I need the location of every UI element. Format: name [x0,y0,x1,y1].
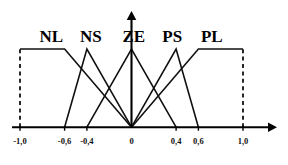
set-label-ns: NS [80,27,102,46]
x-tick-labels-group: -1,0-0,6-0,400,40,61,0 [13,136,248,146]
x-tick-label: 0,6 [193,136,204,146]
x-tick-label: -0,4 [80,136,94,146]
x-tick-label: 0,4 [171,136,182,146]
fuzzy-membership-chart: -1,0-0,6-0,400,40,61,0 NLNSZEPSPL [0,0,288,165]
x-tick-label: -0,6 [58,136,71,146]
set-labels-group: NLNSZEPSPL [39,27,222,46]
set-label-nl: NL [39,27,63,46]
y-axis-arrowhead [127,11,137,20]
x-tick-label: -1,0 [13,136,26,146]
x-tick-label: 1,0 [238,136,249,146]
set-label-pl: PL [201,27,223,46]
x-tick-label: 0 [129,136,133,146]
set-label-ps: PS [162,27,182,46]
set-label-ze: ZE [122,27,145,46]
x-axis-arrowhead [268,122,277,132]
membership-function-plot: -1,0-0,6-0,400,40,61,0 NLNSZEPSPL [0,0,288,165]
